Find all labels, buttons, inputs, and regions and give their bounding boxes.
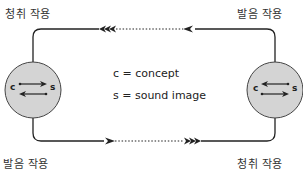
triple-arrowhead-right-icon <box>184 138 201 145</box>
legend-concept: c = concept <box>113 67 179 80</box>
top-path <box>33 26 275 63</box>
label-bottom-left: 발음 작용 <box>3 155 49 171</box>
label-top-right: 발음 작용 <box>237 5 283 21</box>
bottom-path <box>33 118 275 145</box>
legend-sound-image: s = sound image <box>113 89 206 102</box>
triple-arrowhead-left-icon <box>99 26 116 33</box>
label-bottom-right: 청취 작용 <box>237 155 283 171</box>
left-sound-letter: s <box>50 82 55 92</box>
right-concept-letter: c <box>253 83 258 93</box>
arrowhead-right-icon <box>105 138 115 145</box>
arrowhead-left-icon <box>183 26 193 33</box>
left-concept-letter: c <box>10 82 15 92</box>
right-sound-letter: s <box>292 83 297 93</box>
label-top-left: 청취 작용 <box>5 5 51 21</box>
